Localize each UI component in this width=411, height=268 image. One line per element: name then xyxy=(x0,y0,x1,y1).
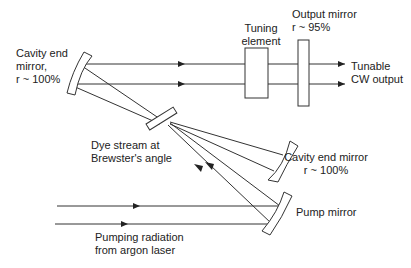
pump-arrow-reflect-2 xyxy=(194,164,203,172)
pump-arrow-reflect-1 xyxy=(205,162,214,170)
label-left-cavity-mirror: Cavity end mirror, r ~ 100% xyxy=(16,47,68,86)
label-tunable-output: Tunable CW output xyxy=(351,60,403,86)
beam-diag-1 xyxy=(82,66,163,121)
output-mirror xyxy=(298,40,309,106)
arrow-upper-mid xyxy=(178,61,185,67)
arrow-lower-out xyxy=(338,81,345,87)
label-tuning-element: Tuning element xyxy=(236,22,286,48)
label-output-mirror: Output mirror r ~ 95% xyxy=(292,8,357,34)
label-pump-source: Pumping radiation from argon laser xyxy=(95,231,184,257)
laser-cavity-diagram xyxy=(0,0,411,268)
tuning-element xyxy=(245,48,268,98)
arrow-lower-mid xyxy=(178,81,185,87)
pump-reflect-2 xyxy=(168,125,272,224)
label-dye-stream: Dye stream at Brewster's angle xyxy=(91,139,172,165)
dye-stream-cell xyxy=(146,107,177,130)
label-pump-mirror: Pump mirror xyxy=(296,206,357,219)
label-right-cavity-mirror: Cavity end mirror r ~ 100% xyxy=(268,151,384,177)
pump-reflect-1 xyxy=(170,123,280,206)
beam-diag-2 xyxy=(73,86,160,124)
pump-arrow-lower xyxy=(121,221,128,227)
arrow-upper-out xyxy=(338,61,345,67)
pump-mirror xyxy=(262,192,292,235)
pump-arrow-upper xyxy=(133,203,140,209)
